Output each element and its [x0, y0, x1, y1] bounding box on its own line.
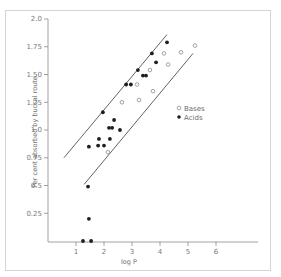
- acid-point: [144, 74, 148, 78]
- y-tick-label: 2.0: [31, 15, 42, 23]
- acid-point: [87, 145, 91, 149]
- x-axis-label: log P: [121, 258, 137, 266]
- acid-point: [154, 60, 158, 64]
- base-point: [106, 150, 110, 154]
- base-point: [135, 83, 139, 87]
- legend: Bases Acids: [177, 105, 205, 122]
- acid-point: [118, 128, 122, 132]
- acid-point: [136, 68, 140, 72]
- acid-point: [108, 137, 112, 141]
- base-point: [162, 52, 166, 56]
- legend-bases-label: Bases: [184, 105, 205, 113]
- base-point: [137, 98, 141, 102]
- acid-point: [97, 137, 101, 141]
- acid-point: [102, 144, 106, 148]
- acid-point: [89, 239, 93, 243]
- acid-point: [81, 239, 85, 243]
- x-tick-label: 3: [130, 248, 134, 256]
- acid-point: [86, 185, 90, 189]
- base-point: [193, 44, 197, 48]
- base-point: [179, 51, 183, 55]
- acid-point: [129, 83, 133, 87]
- legend-bases-marker-icon: [177, 106, 181, 110]
- data-points: [81, 40, 197, 242]
- acid-point: [87, 217, 91, 221]
- base-point: [151, 89, 155, 93]
- x-axis-ticks: 123456: [74, 242, 219, 256]
- acid-point: [101, 110, 105, 114]
- x-tick-label: 2: [102, 248, 106, 256]
- base-point: [120, 100, 124, 104]
- scatter-chart: 0.250.50.751.01.251.501.752.0 123456 Per…: [0, 0, 281, 277]
- y-axis-label: Per cent absorbed by buccal route: [31, 76, 39, 188]
- base-point: [166, 63, 170, 67]
- y-tick-label: 0.25: [26, 210, 42, 218]
- legend-acids-label: Acids: [184, 114, 203, 122]
- x-tick-label: 5: [186, 248, 190, 256]
- base-point: [148, 68, 152, 72]
- acid-point: [150, 52, 154, 56]
- acid-point: [165, 40, 169, 44]
- legend-acids-marker-icon: [177, 115, 181, 119]
- acid-point: [110, 126, 114, 130]
- y-tick-label: 1.75: [26, 43, 42, 51]
- acid-point: [96, 144, 100, 148]
- acid-point: [112, 118, 116, 122]
- x-tick-label: 1: [74, 248, 78, 256]
- x-tick-label: 6: [214, 248, 219, 256]
- lower-bound-line: [84, 53, 193, 184]
- bound-lines: [64, 35, 193, 185]
- acid-point: [124, 83, 128, 87]
- x-tick-label: 4: [158, 248, 163, 256]
